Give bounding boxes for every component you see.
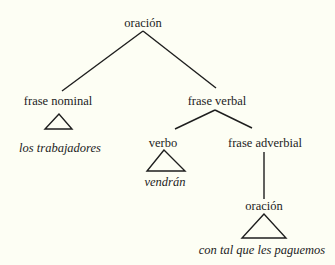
syntax-tree-diagram: oración frase nominal los trabajadores f…	[0, 0, 335, 265]
edge-root-to-vp	[143, 31, 216, 88]
verb-triangle-icon	[147, 150, 185, 171]
node-frase-verbal: frase verbal	[188, 95, 247, 108]
sub-s-triangle-icon	[242, 214, 286, 238]
node-oracion-root: oración	[124, 17, 161, 30]
node-frase-adverbial: frase adverbial	[228, 137, 302, 150]
leaf-los-trabajadores: los trabajadores	[19, 142, 101, 155]
edge-root-to-np	[62, 31, 143, 91]
edge-vp-to-verb	[175, 110, 215, 129]
leaf-vendran: vendrán	[145, 176, 186, 189]
tree-edges	[0, 0, 335, 265]
edge-vp-to-advp	[215, 110, 252, 128]
leaf-con-tal-que-les-paguemos: con tal que les paguemos	[199, 244, 325, 257]
node-verbo: verbo	[149, 137, 177, 150]
node-frase-nominal: frase nominal	[24, 95, 92, 108]
node-oracion-embedded: oración	[245, 200, 282, 213]
np-triangle-icon	[45, 114, 72, 129]
